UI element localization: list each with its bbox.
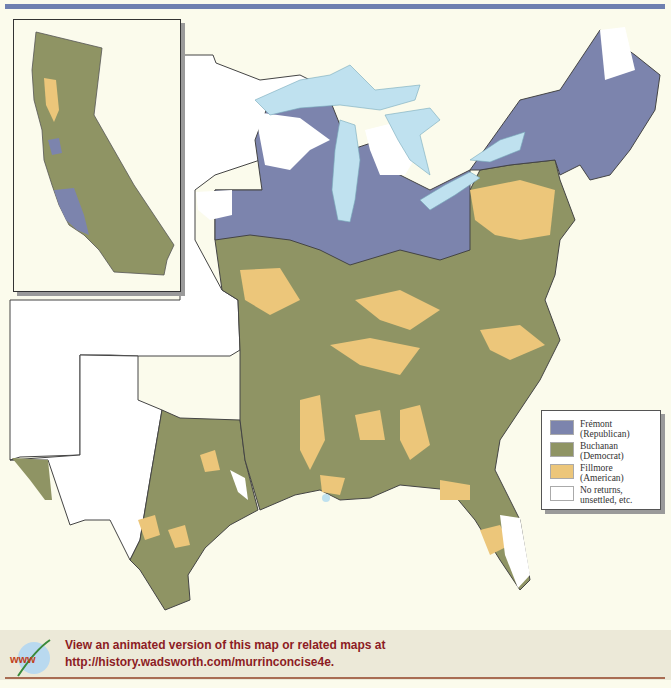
footer-url[interactable]: http://history.wadsworth.com/murrinconci… (65, 654, 386, 671)
legend-item-no-returns: No returns, unsettled, etc. (550, 485, 633, 505)
lake-superior (255, 65, 420, 115)
www-globe-icon[interactable]: www (8, 636, 56, 680)
legend-label-buchanan: Buchanan (Democrat) (580, 441, 624, 461)
footer-line-1: View an animated version of this map or … (65, 637, 386, 654)
svg-text:www: www (9, 653, 36, 665)
no-returns-swatch (550, 486, 574, 501)
lake-pontchartrain (322, 494, 330, 502)
california-map (14, 20, 180, 291)
legend-item-buchanan: Buchanan (Democrat) (550, 441, 624, 461)
map-legend: Frémont (Republican) Buchanan (Democrat)… (541, 410, 661, 510)
footer-link-text[interactable]: View an animated version of this map or … (65, 637, 386, 671)
fillmore-swatch (550, 464, 574, 479)
iowa-nw-unsettled (196, 190, 232, 220)
fremont-swatch (550, 420, 574, 435)
footer-divider (5, 677, 665, 679)
legend-label-no-returns: No returns, unsettled, etc. (580, 485, 633, 505)
legend-item-fillmore: Fillmore (American) (550, 463, 624, 483)
buchanan-swatch (550, 442, 574, 457)
legend-label-fillmore: Fillmore (American) (580, 463, 624, 483)
state-texas-far-west (12, 458, 52, 500)
california-inset (13, 19, 181, 292)
legend-item-fremont: Frémont (Republican) (550, 419, 630, 439)
legend-label-fremont: Frémont (Republican) (580, 419, 630, 439)
